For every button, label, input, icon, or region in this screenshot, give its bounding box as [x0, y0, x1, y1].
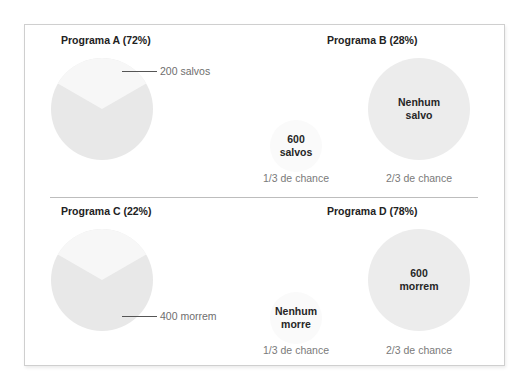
panel-b-big-label: Nenhum salvo: [398, 96, 440, 122]
panel-c-leader-line: [122, 316, 157, 317]
panel-d-small-label: Nenhum morre: [275, 305, 317, 331]
panel-b-small-circle: 600 salvos: [270, 120, 322, 172]
panel-d-big-chance: 2/3 de chance: [379, 344, 459, 356]
panel-b-small-chance: 1/3 de chance: [256, 172, 336, 184]
panel-a-pie-chart: [50, 57, 154, 161]
panel-d-big-circle: 600 morrem: [368, 229, 470, 331]
panel-a-title: Programa A (72%): [61, 34, 151, 46]
panel-b-big-circle: Nenhum salvo: [368, 58, 470, 160]
panel-a-callout: 200 salvos: [160, 65, 210, 77]
panel-c-title: Programa C (22%): [61, 205, 151, 217]
panel-d-small-chance: 1/3 de chance: [256, 344, 336, 356]
panel-d-big-label: 600 morrem: [399, 267, 438, 293]
panel-b-small-label: 600 salvos: [280, 133, 313, 159]
panel-a-leader-line: [122, 71, 157, 72]
panel-d-title: Programa D (78%): [327, 205, 417, 217]
panel-c-callout: 400 morrem: [160, 310, 217, 322]
panel-b-big-chance: 2/3 de chance: [379, 172, 459, 184]
panel-d-small-circle: Nenhum morre: [270, 292, 322, 344]
panel-b-title: Programa B (28%): [327, 34, 417, 46]
panel-separator: [50, 197, 478, 198]
